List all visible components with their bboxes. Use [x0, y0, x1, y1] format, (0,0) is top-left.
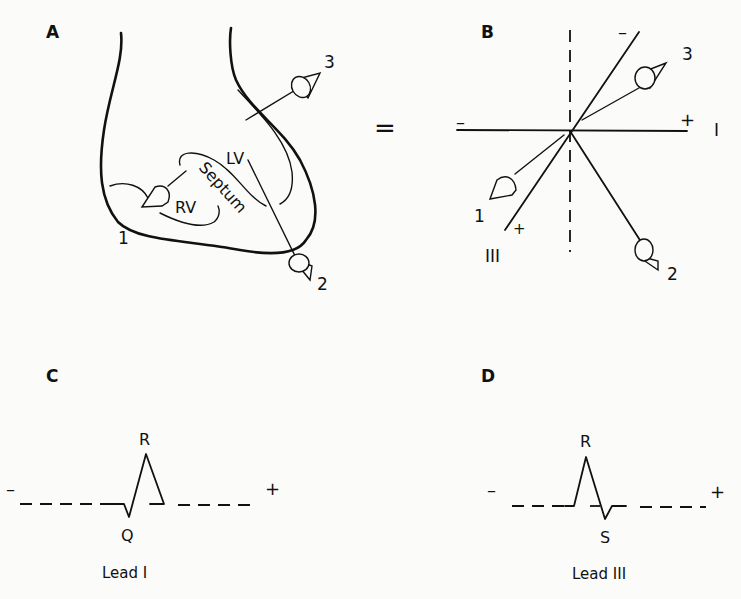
lead-i-r-wave-label: R [139, 430, 150, 449]
panel-d-label: D [481, 366, 495, 386]
lv-inner-wall [238, 90, 292, 204]
lead-i-qrs-complex [112, 454, 164, 517]
panel-c: C – + R Q Lead I [6, 366, 280, 582]
lead-iii-tracing-pos: + [710, 481, 725, 502]
electrode-2-label: 2 [317, 274, 328, 294]
panel-b-label: B [481, 22, 494, 42]
electrode-1-axis [168, 171, 186, 186]
b-electrode-1-eye-icon [490, 177, 516, 199]
b-electrode-1-label: 1 [474, 206, 485, 226]
b-electrode-2-label: 2 [667, 264, 678, 284]
b-electrode-2-axis [570, 131, 645, 248]
lead-i-caption: Lead I [102, 564, 147, 582]
electrode-3-label: 3 [324, 52, 335, 72]
electrode-2-axis [248, 160, 298, 262]
b-electrode-3-eye-icon [635, 63, 666, 89]
lead-iii-neg: – [618, 21, 627, 42]
ecg-vector-diagram: A 3 2 1 LV RV Septum = [0, 0, 741, 599]
lead-iii-label: III [485, 246, 500, 266]
lead-i-label: I [714, 120, 719, 140]
electrode-2-eye-icon [289, 254, 312, 280]
panel-d: D – + R S Lead III [481, 366, 725, 583]
rv-inner-curve [110, 184, 148, 198]
lead-iii-s-wave-label: S [600, 528, 610, 547]
b-electrode-3-label: 3 [682, 44, 693, 64]
rv-label: RV [175, 198, 196, 217]
lead-i-neg: – [456, 111, 465, 132]
lead-i-tracing-pos: + [265, 478, 280, 499]
b-electrode-2-eye-icon [635, 239, 658, 270]
panel-b: B – + I – + III 3 2 1 [456, 21, 719, 284]
lv-label: LV [226, 149, 244, 168]
lead-iii-rs-complex [565, 457, 626, 519]
lead-i-pos: + [680, 109, 695, 130]
electrode-1-eye-icon [142, 186, 169, 207]
lead-iii-pos: + [513, 220, 526, 238]
panel-a-label: A [46, 22, 60, 42]
lead-i-tracing-neg: – [6, 478, 15, 499]
lead-iii-caption: Lead III [572, 565, 626, 583]
heart-outline [101, 28, 315, 253]
panel-c-label: C [46, 366, 58, 386]
electrode-3-eye-icon [288, 73, 320, 101]
equals-sign: = [374, 113, 396, 143]
panel-a: A 3 2 1 LV RV Septum [46, 22, 335, 294]
lead-iii-r-wave-label: R [580, 432, 591, 451]
lead-iii-tracing-neg: – [487, 479, 496, 500]
electrode-1-label: 1 [118, 228, 129, 248]
lead-i-q-wave-label: Q [121, 526, 134, 545]
